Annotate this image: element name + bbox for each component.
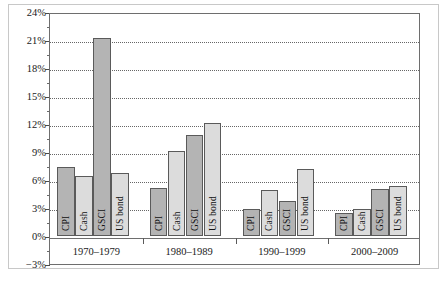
y-tick-label: 0% xyxy=(0,232,46,242)
bar-us-bond: US bond xyxy=(297,169,315,236)
bar-gsci: GSCI xyxy=(279,201,297,236)
bar-cash: Cash xyxy=(75,176,93,236)
bar-label: US bond xyxy=(208,196,218,231)
y-tick-label: 6% xyxy=(0,176,46,186)
bar-label: GSCI xyxy=(97,209,107,231)
group-separator-tick xyxy=(236,238,237,244)
bar-cpi: CPI xyxy=(57,167,75,236)
bar-us-bond: US bond xyxy=(389,186,407,236)
zero-axis-line xyxy=(50,238,419,239)
bar-cpi: CPI xyxy=(243,209,261,236)
y-axis-labels: 24%21%18%15%12%9%6%3%0%−3% xyxy=(0,0,46,284)
bar-label: Cash xyxy=(357,211,367,231)
group-label: 1980–1989 xyxy=(143,246,236,257)
bar-label: US bond xyxy=(393,196,403,231)
bar-label: GSCI xyxy=(375,209,385,231)
y-tick-label: −3% xyxy=(0,260,46,270)
bar-label: Cash xyxy=(264,211,274,231)
chart-figure: 24%21%18%15%12%9%6%3%0%−3% CPICashGSCIUS… xyxy=(0,0,447,284)
group-separator-tick xyxy=(328,238,329,244)
bar-us-bond: US bond xyxy=(111,173,129,236)
group-label: 2000–2009 xyxy=(328,246,421,257)
bar-cpi: CPI xyxy=(335,213,353,236)
y-tick-label: 15% xyxy=(0,92,46,102)
bar-gsci: GSCI xyxy=(93,38,111,236)
bar-label: Cash xyxy=(79,211,89,231)
bar-gsci: GSCI xyxy=(186,135,204,236)
bar-label: GSCI xyxy=(190,209,200,231)
group-label: 1970–1979 xyxy=(50,246,143,257)
bar-label: US bond xyxy=(115,196,125,231)
bar-label: Cash xyxy=(172,211,182,231)
bar-us-bond: US bond xyxy=(204,123,222,236)
y-tick-label: 21% xyxy=(0,36,46,46)
bar-cash: Cash xyxy=(353,209,371,236)
y-tick-label: 24% xyxy=(0,8,46,18)
group-label: 1990–1999 xyxy=(236,246,329,257)
bar-label: CPI xyxy=(246,216,256,231)
plot-area: CPICashGSCIUS bondCPICashGSCIUS bondCPIC… xyxy=(49,13,420,265)
bar-label: GSCI xyxy=(282,209,292,231)
bar-label: CPI xyxy=(61,216,71,231)
bar-cash: Cash xyxy=(261,190,279,236)
group-separator-tick xyxy=(143,238,144,244)
bar-label: US bond xyxy=(300,196,310,231)
bar-label: CPI xyxy=(154,216,164,231)
y-tick-major xyxy=(45,265,50,266)
bar-label: CPI xyxy=(339,216,349,231)
y-tick-label: 9% xyxy=(0,148,46,158)
bar-gsci: GSCI xyxy=(371,189,389,236)
bar-cpi: CPI xyxy=(150,188,168,236)
y-tick-label: 3% xyxy=(0,204,46,214)
y-tick-label: 18% xyxy=(0,64,46,74)
y-tick-label: 12% xyxy=(0,120,46,130)
bar-cash: Cash xyxy=(168,151,186,236)
